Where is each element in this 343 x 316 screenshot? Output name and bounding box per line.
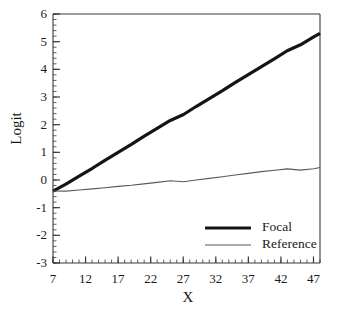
y-tick-label: -2 <box>21 227 47 243</box>
y-tick-label: 2 <box>21 117 47 133</box>
logit-line-chart: Logit X -3-2-10123456 71217222732374247 … <box>0 0 343 316</box>
x-tick-label: 12 <box>71 271 101 287</box>
series-line-reference <box>53 168 320 192</box>
y-tick-label: 0 <box>21 172 47 188</box>
y-tick-label: 6 <box>21 6 47 22</box>
x-tick-label: 47 <box>298 271 328 287</box>
legend-sample-lines <box>205 228 251 245</box>
y-tick-label: 5 <box>21 34 47 50</box>
y-tick-label: -1 <box>21 200 47 216</box>
x-axis-label: X <box>158 289 218 306</box>
series-line-focal <box>53 33 320 191</box>
y-tick-label: -3 <box>21 255 47 271</box>
x-tick-label: 37 <box>233 271 263 287</box>
y-tick-label: 4 <box>21 61 47 77</box>
y-tick-label: 3 <box>21 89 47 105</box>
plot-canvas <box>0 0 343 316</box>
data-series-layer <box>53 33 320 191</box>
x-tick-label: 17 <box>103 271 133 287</box>
x-tick-label: 7 <box>38 271 68 287</box>
x-tick-label: 22 <box>136 271 166 287</box>
x-tick-label: 32 <box>201 271 231 287</box>
legend-label-focal: Focal <box>262 219 292 235</box>
y-major-ticks <box>53 14 60 263</box>
legend-label-reference: Reference <box>262 236 317 252</box>
x-tick-label: 27 <box>168 271 198 287</box>
y-tick-label: 1 <box>21 144 47 160</box>
x-tick-label: 42 <box>266 271 296 287</box>
